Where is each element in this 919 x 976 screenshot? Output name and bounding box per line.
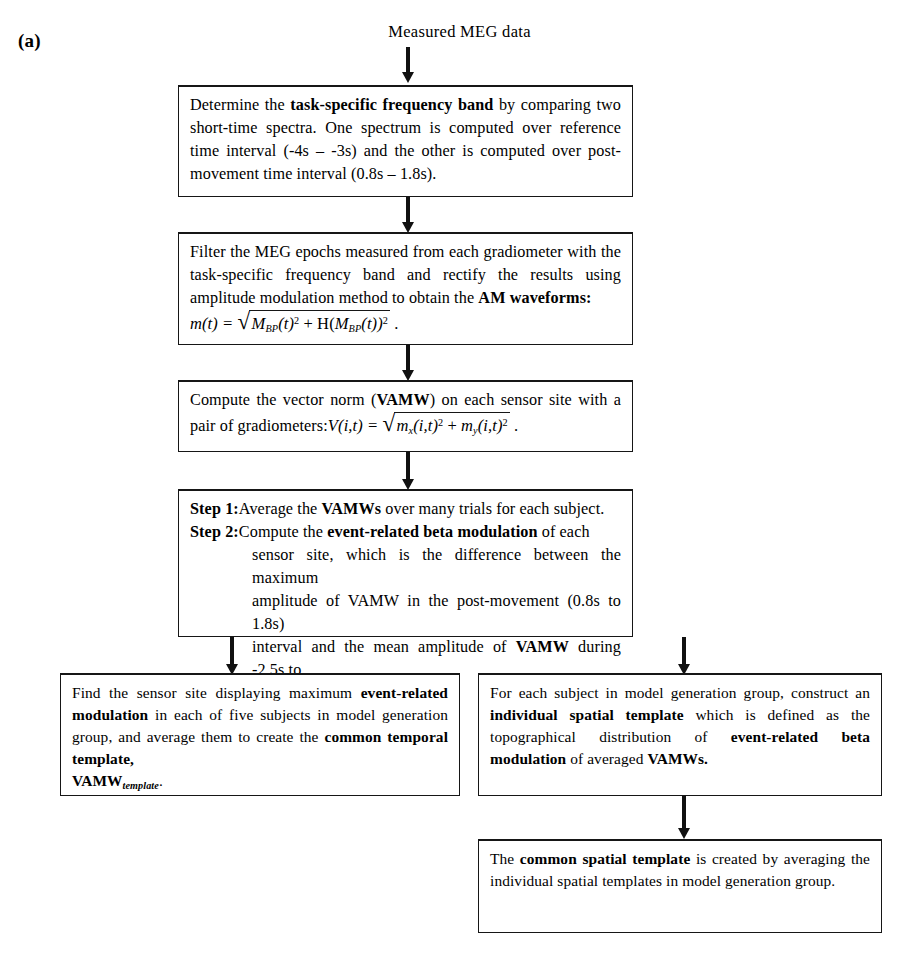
arrow-spatial-to-common-spatial	[682, 796, 686, 840]
node-common-spatial-text: The common spatial template is created b…	[490, 848, 870, 892]
arrow-determine-to-filter	[406, 197, 410, 233]
arrow-steps-to-spatial-template	[682, 637, 686, 675]
am-term2-fn: H(	[317, 314, 335, 333]
step-1-body: Average the VAMWs over many trials for e…	[239, 498, 621, 521]
vn-term1-exp: 2	[438, 417, 443, 428]
vn-formula-trailing: .	[514, 416, 518, 435]
temporal-text-1: Find the sensor site displaying maximum	[72, 684, 361, 701]
common-spatial-bold-1: common spatial template	[520, 850, 691, 867]
am-term2-exp: 2	[383, 315, 388, 326]
node-common-temporal-template: Find the sensor site displaying maximum …	[60, 673, 460, 796]
am-formula-trailing: .	[394, 314, 398, 333]
node-spatial-text: For each subject in model generation gro…	[490, 682, 870, 770]
formula-vector-norm: V(i,t) = √ mx(i,t)2 + my(i,t)2 .	[328, 412, 518, 438]
am-operator: +	[303, 314, 312, 333]
node-steps: Step 1: Average the VAMWs over many tria…	[178, 489, 633, 637]
step-2-text-2: of each	[538, 523, 590, 541]
determine-bold-1: task-specific frequency band	[290, 96, 493, 114]
vn-formula-lhs: V(i,t) =	[328, 416, 378, 435]
step-1-tag: Step 1:	[190, 498, 239, 521]
spatial-text-3: of averaged	[566, 750, 647, 767]
step-2-label: Step 2	[190, 523, 233, 541]
vn-term1-base: m	[397, 416, 409, 435]
step-1-text-2: over many trials for each subject.	[381, 500, 604, 518]
determine-text-1: Determine the	[190, 96, 290, 114]
step-2-tag: Step 2:	[190, 521, 239, 544]
step-1-bold: VAMWs	[322, 500, 382, 518]
step-2-line-2: sensor site, which is the difference bet…	[252, 544, 621, 590]
node-determine-text: Determine the task-specific frequency ba…	[190, 94, 621, 186]
am-formula-radical: √ MBP(t)2 + H(MBP(t))2	[238, 310, 390, 336]
spatial-bold-3: VAMWs.	[647, 750, 708, 767]
radical-sign-icon: √	[383, 413, 396, 436]
am-term2-base: M	[335, 314, 349, 333]
vn-term2-exp: 2	[503, 417, 508, 428]
spatial-bold-1: individual spatial template	[490, 706, 684, 723]
step-1-row: Step 1: Average the VAMWs over many tria…	[190, 498, 621, 521]
arrow-filter-to-vector-norm	[406, 345, 410, 381]
vn-formula-radical: √ mx(i,t)2 + my(i,t)2	[383, 412, 510, 438]
node-individual-spatial-template: For each subject in model generation gro…	[478, 673, 882, 796]
node-filter-text: Filter the MEG epochs measured from each…	[190, 241, 621, 310]
am-formula-lhs: m(t) =	[190, 314, 233, 333]
temporal-bold-3: VAMW	[72, 772, 123, 789]
arrow-source-to-determine	[406, 47, 410, 83]
node-common-spatial-template: The common spatial template is created b…	[478, 839, 882, 933]
spatial-text-1: For each subject in model generation gro…	[490, 684, 870, 701]
filter-bold-1: AM waveforms:	[478, 289, 591, 307]
step-1-label: Step 1	[190, 500, 233, 518]
vnorm-text-1: Compute the vector norm (	[190, 391, 377, 409]
temporal-text-3: .	[159, 772, 163, 789]
am-term2-arg: (t))	[361, 314, 382, 333]
step-2-text-1: Compute the	[239, 523, 327, 541]
step-2-line-4-text-1: interval and the mean amplitude of	[252, 638, 516, 656]
source-label: Measured MEG data	[0, 22, 919, 42]
step-2-line-4-bold: VAMW	[516, 638, 569, 656]
vnorm-bold-1: VAMW	[377, 391, 430, 409]
vn-term2-arg: (i,t)	[478, 416, 503, 435]
am-term1-exp: 2	[294, 315, 299, 326]
formula-am-waveform: m(t) = √ MBP(t)2 + H(MBP(t))2 .	[190, 310, 621, 336]
node-temporal-text: Find the sensor site displaying maximum …	[72, 682, 448, 770]
step-2-line-3: amplitude of VAMW in the post-movement (…	[252, 590, 621, 636]
am-term1-sub: BP	[265, 323, 278, 334]
step-2-body: Compute the event-related beta modulatio…	[239, 521, 621, 544]
step-2-bold-1: event-related beta modulation	[327, 523, 537, 541]
node-vector-norm: Compute the vector norm (VAMW) on each s…	[178, 380, 633, 452]
node-filter-am-waveform: Filter the MEG epochs measured from each…	[178, 232, 633, 345]
node-determine-frequency-band: Determine the task-specific frequency ba…	[178, 85, 633, 197]
vn-term1-arg: (i,t)	[413, 416, 438, 435]
vn-term2-base: m	[461, 416, 473, 435]
step-2-row: Step 2: Compute the event-related beta m…	[190, 521, 621, 544]
am-term1-arg: (t)	[278, 314, 294, 333]
arrow-vector-norm-to-steps	[406, 452, 410, 490]
am-term2-sub: BP	[349, 323, 362, 334]
vn-operator: +	[447, 416, 456, 435]
step-1-text-1: Average the	[239, 500, 322, 518]
temporal-template-symbol: VAMWtemplate.	[72, 770, 448, 793]
arrow-steps-to-temporal-template	[230, 637, 234, 675]
common-spatial-text-1: The	[490, 850, 520, 867]
node-vector-norm-text: Compute the vector norm (VAMW) on each s…	[190, 389, 621, 438]
am-term1-base: M	[252, 314, 266, 333]
temporal-subscript: template	[123, 780, 159, 791]
radical-sign-icon: √	[238, 311, 251, 334]
